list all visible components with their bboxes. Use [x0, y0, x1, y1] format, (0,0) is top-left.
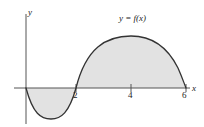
x-tick-label-6: 6 — [182, 91, 187, 100]
figure-container: y x 2 4 6 y = f(x) — [0, 0, 204, 127]
shaded-region-negative-lobe — [26, 88, 76, 119]
curve-label: y = f(x) — [119, 14, 146, 23]
y-axis-label: y — [28, 8, 32, 17]
x-tick-label-2: 2 — [73, 91, 78, 100]
x-axis-label: x — [192, 84, 196, 93]
shaded-region-positive-hump — [76, 36, 186, 88]
function-graph-svg — [0, 0, 204, 127]
x-tick-label-4: 4 — [128, 91, 133, 100]
